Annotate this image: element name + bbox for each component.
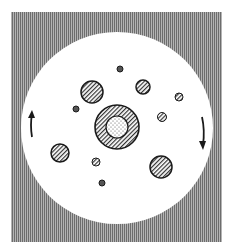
particle-3: [117, 66, 123, 72]
particle-1: [81, 81, 103, 103]
particle-10: [99, 180, 105, 186]
particle-4: [175, 93, 183, 101]
particle-2: [136, 80, 150, 94]
particle-8: [92, 158, 100, 166]
particle-9: [150, 156, 172, 178]
rotating-disk-diagram: [0, 0, 233, 252]
particle-6: [158, 113, 167, 122]
center-body: [95, 105, 139, 149]
particle-5: [73, 106, 79, 112]
particle-7: [51, 144, 69, 162]
center-body-core: [106, 116, 128, 138]
